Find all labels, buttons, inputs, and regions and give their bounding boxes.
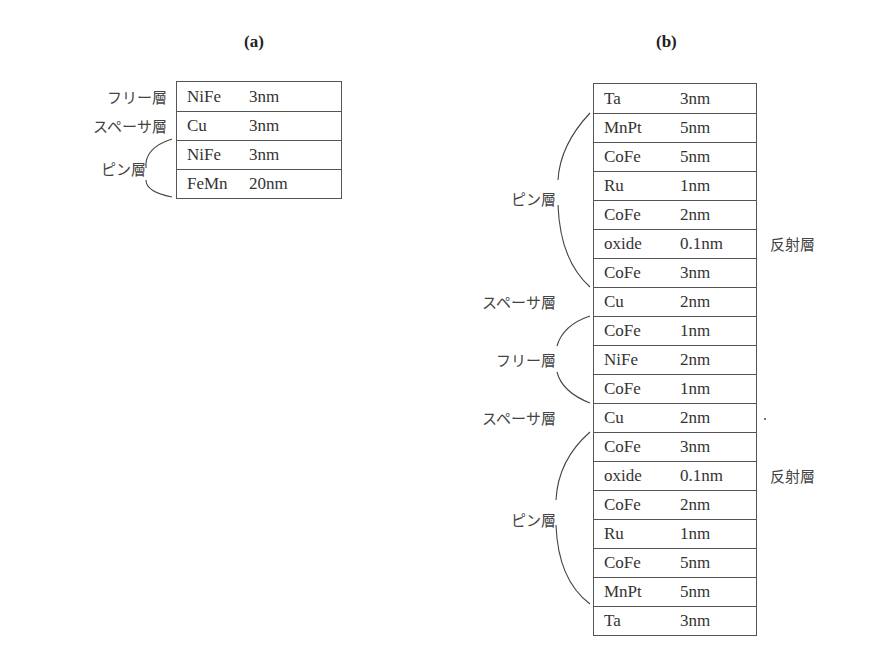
panel-b-pinned-bracket-top xyxy=(558,113,590,287)
panel-b-free-bracket xyxy=(557,316,590,403)
bracket-layer xyxy=(0,0,874,656)
panel-b-pinned-bracket-bottom xyxy=(556,432,590,604)
panel-a-pinned-bracket xyxy=(146,139,172,197)
